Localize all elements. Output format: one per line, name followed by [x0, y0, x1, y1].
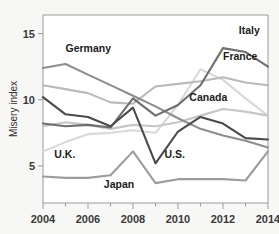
series-label-canada: Canada — [189, 91, 227, 103]
x-tick-label: 2008 — [121, 213, 145, 225]
chart-container: 51015200420062008201020122014 GermanyIta… — [0, 0, 279, 234]
x-tick-label: 2010 — [166, 213, 190, 225]
series-label-germany: Germany — [66, 42, 112, 54]
y-tick-label: 10 — [23, 94, 35, 106]
series-label-us: U.S. — [165, 148, 186, 160]
series-label-france: France — [223, 50, 258, 62]
series-label-japan: Japan — [104, 178, 134, 190]
x-tick-label: 2014 — [256, 213, 279, 225]
x-tick-label: 2006 — [76, 213, 100, 225]
y-tick-label: 15 — [23, 28, 35, 40]
x-tick-label: 2012 — [211, 213, 235, 225]
y-tick-label: 5 — [29, 160, 35, 172]
y-axis-title: Misery index — [8, 81, 19, 137]
misery-index-line-chart: 51015200420062008201020122014 GermanyIta… — [0, 0, 279, 234]
x-tick-label: 2004 — [31, 213, 56, 225]
series-label-italy: Italy — [239, 24, 260, 36]
series-label-uk: U.K. — [54, 148, 75, 160]
